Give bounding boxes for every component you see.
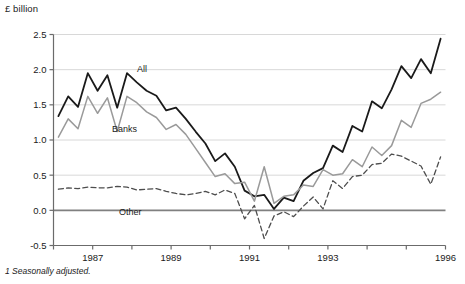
y-axis-tick-label: 2.0	[33, 64, 46, 75]
x-axis: 19871989199119931996	[54, 246, 457, 263]
y-axis-unit-label: £ billion	[5, 3, 38, 14]
series-label-all: All	[137, 64, 147, 74]
x-axis-tick-label: 1993	[317, 252, 338, 263]
x-axis-tick-label: 1996	[435, 252, 456, 263]
x-axis-tick-label: 1987	[82, 252, 103, 263]
x-axis-tick-label: 1989	[161, 252, 182, 263]
y-axis-tick-label: 1.0	[33, 134, 46, 145]
series-line-other	[58, 154, 440, 238]
series-group	[58, 39, 440, 239]
y-axis: -0.50.00.51.01.52.02.5	[30, 29, 53, 251]
y-axis-tick-label: 0.0	[33, 205, 46, 216]
y-axis-tick-label: -0.5	[30, 240, 46, 251]
line-chart-plot: -0.50.00.51.01.52.02.5 19871989199119931…	[0, 0, 465, 284]
y-axis-tick-label: 2.5	[33, 29, 46, 40]
gridlines-group	[54, 35, 446, 176]
y-axis-tick-label: 1.5	[33, 99, 46, 110]
series-label-banks: Banks	[112, 124, 138, 134]
chart-figure: £ billion -0.50.00.51.01.52.02.5 1987198…	[0, 0, 465, 284]
x-axis-tick-label: 1991	[239, 252, 260, 263]
y-axis-tick-label: 0.5	[33, 170, 46, 181]
chart-footnote: 1 Seasonally adjusted.	[5, 266, 91, 276]
series-label-other: Other	[119, 207, 142, 217]
